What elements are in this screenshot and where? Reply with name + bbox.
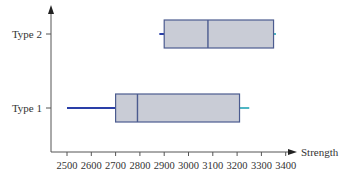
x-axis-arrow-icon bbox=[288, 149, 297, 155]
y-axis-arrow-icon bbox=[48, 5, 54, 14]
iqr-box bbox=[116, 94, 240, 122]
y-category-label: Type 2 bbox=[12, 28, 42, 40]
box-plot-chart: Strength25002600270028002900300031003200… bbox=[0, 0, 349, 182]
x-tick-label: 2700 bbox=[105, 160, 126, 171]
x-tick-label: 2900 bbox=[154, 160, 175, 171]
x-tick-label: 3000 bbox=[178, 160, 199, 171]
box-type-1 bbox=[67, 94, 249, 122]
x-tick-label: 3200 bbox=[227, 160, 248, 171]
boxes bbox=[67, 20, 276, 122]
x-tick-label: 3400 bbox=[275, 160, 296, 171]
x-axis-label: Strength bbox=[301, 146, 339, 158]
x-tick-label: 3100 bbox=[202, 160, 223, 171]
y-category-label: Type 1 bbox=[12, 102, 42, 114]
x-tick-label: 2600 bbox=[81, 160, 102, 171]
iqr-box bbox=[164, 20, 273, 48]
x-tick-label: 2800 bbox=[129, 160, 150, 171]
box-type-2 bbox=[159, 20, 276, 48]
x-tick-label: 2500 bbox=[57, 160, 78, 171]
x-tick-label: 3300 bbox=[251, 160, 272, 171]
